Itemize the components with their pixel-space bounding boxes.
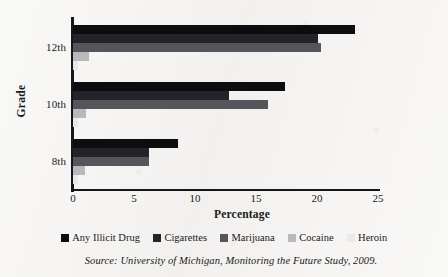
bar-10th-any-illicit-drug <box>73 82 285 91</box>
bar-10th-heroin <box>73 118 78 127</box>
bar-chart: Grade 12th10th8th 0510152025 Percentage … <box>0 0 448 277</box>
bar-group-10th <box>73 76 378 133</box>
bar-12th-any-illicit-drug <box>73 25 355 34</box>
legend-item-cocaine[interactable]: Cocaine <box>288 232 334 243</box>
bar-8th-any-illicit-drug <box>73 139 178 148</box>
y-tick-label-10th: 10th <box>46 98 66 110</box>
x-tick-label-10: 10 <box>190 192 201 204</box>
legend-item-label: Cigarettes <box>164 232 207 243</box>
legend-item-label: Heroin <box>358 232 387 243</box>
legend-swatch-icon <box>220 234 228 242</box>
x-tick-label-5: 5 <box>131 192 137 204</box>
x-tick-label-20: 20 <box>312 192 323 204</box>
bar-12th-cocaine <box>73 52 89 61</box>
legend-item-heroin[interactable]: Heroin <box>347 232 388 243</box>
x-axis-title-text: Percentage <box>214 208 270 220</box>
bar-8th-marijuana <box>73 157 149 166</box>
source-note-text: Source: University of Michigan, Monitori… <box>85 255 377 266</box>
y-tick-label-8th: 8th <box>52 155 66 167</box>
bar-8th-heroin <box>73 175 78 184</box>
x-tick-label-0: 0 <box>70 192 76 204</box>
bar-8th-cigarettes <box>73 148 149 157</box>
bar-8th-cocaine <box>73 166 85 175</box>
bar-10th-cigarettes <box>73 91 229 100</box>
bar-10th-marijuana <box>73 100 268 109</box>
legend-item-marijuana[interactable]: Marijuana <box>220 232 275 243</box>
legend-swatch-icon <box>61 234 69 242</box>
source-note: Source: University of Michigan, Monitori… <box>0 255 448 266</box>
bar-group-8th <box>73 133 378 190</box>
legend-item-label: Cocaine <box>299 232 333 243</box>
legend-item-label: Any Illicit Drug <box>72 232 140 243</box>
plot-area <box>73 19 378 190</box>
bar-12th-heroin <box>73 61 78 70</box>
x-tick-label-15: 15 <box>251 192 262 204</box>
legend-item-any-illicit-drug[interactable]: Any Illicit Drug <box>61 232 140 243</box>
bar-10th-cocaine <box>73 109 86 118</box>
legend-item-label: Marijuana <box>232 232 275 243</box>
x-axis-title: Percentage <box>0 208 448 220</box>
bar-12th-cigarettes <box>73 34 318 43</box>
y-tick-label-12th: 12th <box>46 41 66 53</box>
chart-legend: Any Illicit DrugCigarettesMarijuanaCocai… <box>0 232 448 243</box>
bar-12th-marijuana <box>73 43 321 52</box>
legend-swatch-icon <box>153 234 161 242</box>
legend-item-cigarettes[interactable]: Cigarettes <box>153 232 207 243</box>
legend-swatch-icon <box>347 234 355 242</box>
bar-group-12th <box>73 19 378 76</box>
x-tick-label-25: 25 <box>373 192 384 204</box>
legend-swatch-icon <box>288 234 296 242</box>
